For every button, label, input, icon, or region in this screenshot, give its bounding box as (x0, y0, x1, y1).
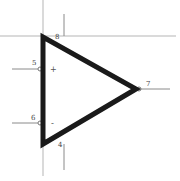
negative-supply-pin: 4 (58, 141, 64, 170)
positive-supply-pin: 8 (55, 14, 64, 41)
output-pin-number: 7 (146, 80, 150, 88)
minus-sign: - (51, 119, 54, 128)
non-inverting-input-pin-number: 5 (32, 59, 36, 67)
op-amp-diagram: 8 4 5 + 6 - 7 (0, 0, 180, 181)
op-amp-triangle (43, 37, 136, 144)
grid-lines (0, 0, 176, 176)
inverting-input-pin-number: 6 (31, 114, 36, 122)
inverting-input-pin: 6 - (12, 114, 54, 128)
plus-sign: + (50, 65, 57, 74)
output-pin: 7 (137, 80, 170, 91)
non-inverting-input-pin: 5 + (12, 59, 57, 74)
negative-supply-pin-number: 4 (58, 141, 63, 149)
positive-supply-pin-number: 8 (55, 33, 59, 41)
